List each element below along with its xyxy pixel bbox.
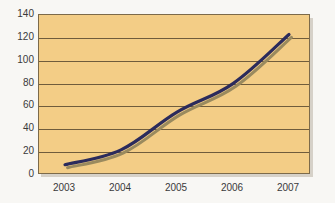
line-chart-figure: 020406080100120140 20032004200520062007 [0, 0, 335, 203]
x-tick-label: 2005 [156, 183, 196, 193]
x-axis-tick-labels: 20032004200520062007 [0, 0, 335, 203]
x-tick-label: 2007 [268, 183, 308, 193]
x-tick-label: 2004 [100, 183, 140, 193]
x-tick-label: 2003 [44, 183, 84, 193]
x-tick-label: 2006 [212, 183, 252, 193]
